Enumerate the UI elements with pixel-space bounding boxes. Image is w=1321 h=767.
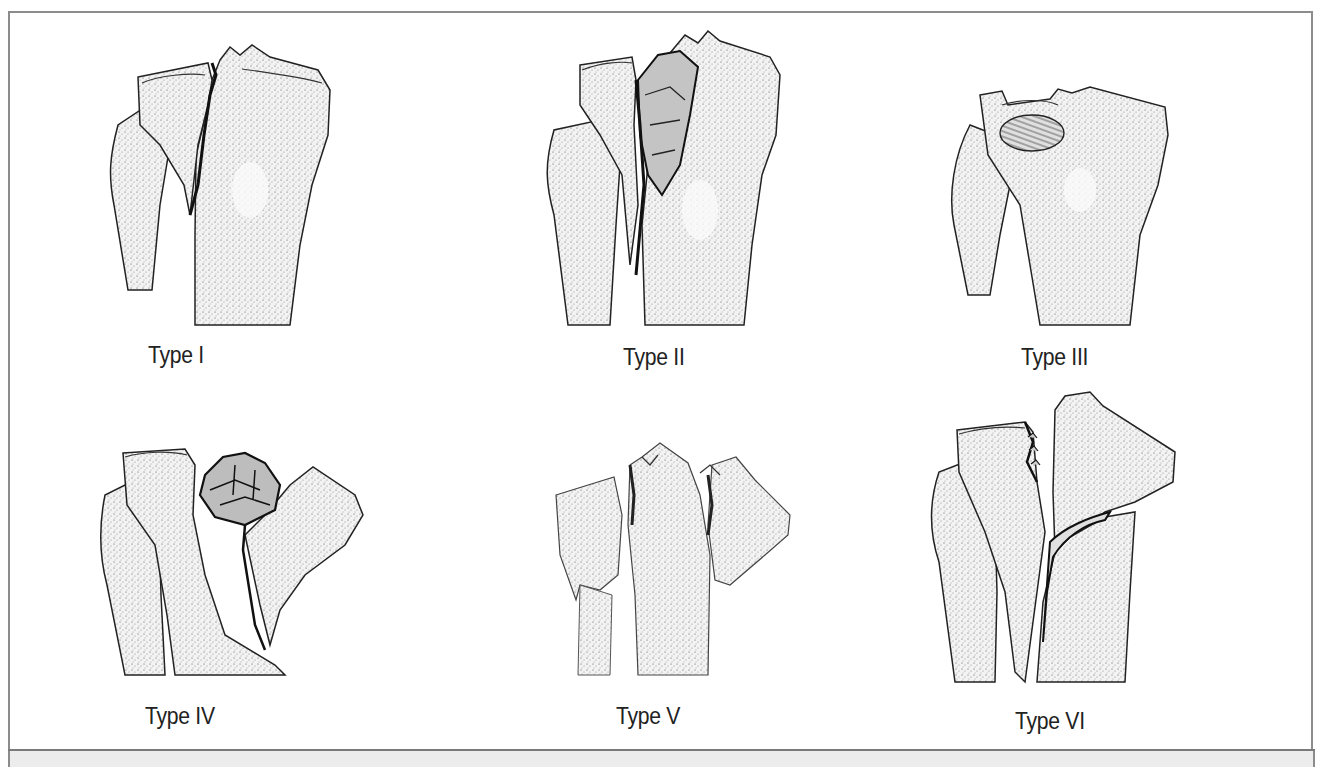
tibia-bicondylar-fracture-illustration [550,435,795,685]
tibia-depression-illustration [940,85,1180,330]
label-type-4: Type IV [145,703,215,730]
label-type-2: Type II [623,344,685,371]
panel-type-2 [540,25,800,330]
panel-type-6 [925,392,1185,690]
label-type-1: Type I [148,342,204,369]
panel-type-3 [940,85,1180,330]
label-type-3: Type III [1021,344,1088,371]
panel-type-5 [550,435,795,685]
panel-type-1 [100,35,350,335]
tibia-metaphyseal-diaphyseal-fracture-illustration [925,392,1185,690]
tibia-split-fracture-illustration [100,35,350,335]
label-type-5: Type V [616,703,680,730]
tibia-split-depression-illustration [540,25,800,330]
panel-type-4 [95,435,375,680]
label-type-6: Type VI [1015,708,1085,735]
tibia-medial-condyle-fracture-illustration [95,435,375,680]
caption-strip [8,751,1315,767]
